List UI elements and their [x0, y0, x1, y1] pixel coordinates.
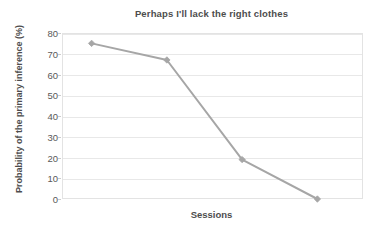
chart-title: Perhaps I'll lack the right clothes	[60, 8, 363, 19]
gridline	[63, 96, 362, 97]
y-axis-tick-label: 40	[6, 111, 58, 122]
y-axis-tick-mark	[58, 137, 61, 138]
y-axis-tick-mark	[58, 178, 61, 179]
y-axis-tick-label: 70	[6, 48, 58, 59]
plot-area	[62, 33, 363, 199]
y-axis-tick-mark	[58, 116, 61, 117]
y-axis-tick-label: 30	[6, 131, 58, 142]
line-chart: Perhaps I'll lack the right clothes Prob…	[0, 0, 383, 230]
y-axis-tick-label: 50	[6, 90, 58, 101]
y-axis-tick-mark	[58, 75, 61, 76]
gridline	[63, 179, 362, 180]
gridline	[63, 54, 362, 55]
gridline	[63, 117, 362, 118]
y-axis-tick-label: 0	[6, 194, 58, 205]
y-axis-tick-label: 80	[6, 28, 58, 39]
y-axis-tick-mark	[58, 33, 61, 34]
y-axis-tick-mark	[58, 199, 61, 200]
y-axis-tick-mark	[58, 54, 61, 55]
gridline	[63, 75, 362, 76]
y-axis-tick-labels: 80706050403020100	[0, 33, 58, 199]
y-axis-tick-label: 20	[6, 152, 58, 163]
gridline	[63, 137, 362, 138]
y-axis-tick-mark	[58, 158, 61, 159]
gridline	[63, 34, 362, 35]
gridline	[63, 158, 362, 159]
y-axis-tick-label: 10	[6, 173, 58, 184]
y-axis-tick-mark	[58, 95, 61, 96]
x-axis-title: Sessions	[60, 209, 363, 220]
y-axis-tick-label: 60	[6, 69, 58, 80]
